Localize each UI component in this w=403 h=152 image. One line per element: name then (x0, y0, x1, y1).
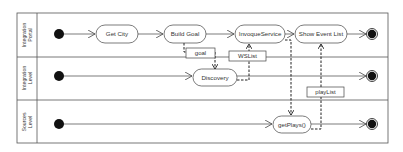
start-node-integration-level (54, 71, 64, 81)
object-goal[interactable]: goal (186, 48, 215, 58)
activity-diagram: Integration Portal Integration Level Sou… (0, 0, 403, 152)
svg-text:Level: Level (27, 72, 33, 84)
svg-text:Get City: Get City (106, 30, 129, 37)
activity-show-event-list[interactable]: Show Event List (295, 25, 347, 43)
lane-label-integration-level: Integration Level (21, 66, 33, 91)
end-node-portal (367, 29, 378, 40)
object-flow-wslist (237, 44, 249, 80)
svg-text:getPlays(): getPlays() (278, 121, 306, 128)
object-flow-invoque-to-get-plays (285, 40, 291, 115)
lane-label-sources-level: Sources Level (21, 112, 33, 131)
activity-invoque-service[interactable]: InvoqueService (235, 25, 285, 43)
object-playlist[interactable]: playList (307, 87, 344, 97)
svg-text:InvoqueService: InvoqueService (239, 30, 282, 37)
svg-text:Build Goal: Build Goal (171, 30, 200, 37)
end-node-sources-level (367, 119, 378, 130)
activity-get-city[interactable]: Get City (96, 25, 138, 43)
activity-discovery[interactable]: Discovery (193, 69, 237, 86)
object-wslist[interactable]: WSList (229, 51, 266, 61)
lane-label-portal: Integration Portal (21, 23, 33, 48)
svg-text:Portal: Portal (27, 28, 33, 42)
start-node-sources-level (54, 119, 64, 129)
activity-get-plays[interactable]: getPlays() (273, 116, 311, 133)
svg-text:Discovery: Discovery (201, 74, 229, 81)
svg-text:WSList: WSList (238, 53, 257, 59)
svg-text:goal: goal (195, 50, 206, 56)
activity-build-goal[interactable]: Build Goal (164, 25, 206, 43)
svg-text:playList: playList (315, 89, 336, 95)
svg-text:Show Event List: Show Event List (299, 30, 344, 37)
start-node-portal (54, 29, 64, 39)
end-node-integration-level (367, 71, 378, 82)
svg-text:Level: Level (27, 116, 33, 128)
